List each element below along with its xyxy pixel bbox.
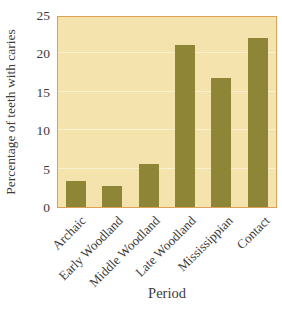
bar-late-woodland <box>175 45 195 207</box>
x-axis-title: Period <box>57 285 277 302</box>
y-tick-20: 20 <box>37 46 51 62</box>
bar-chart-figure: Percentage of teeth with caries 05101520… <box>0 0 282 317</box>
bar-early-woodland <box>102 186 122 207</box>
bar-series <box>58 17 276 207</box>
bar-mississippian <box>211 78 231 207</box>
bar-archaic <box>66 181 86 207</box>
bar-slot-3 <box>167 17 203 207</box>
y-tick-10: 10 <box>37 123 51 139</box>
y-axis-title: Percentage of teeth with caries <box>3 29 19 195</box>
bar-middle-woodland <box>139 164 159 207</box>
bar-slot-1 <box>94 17 130 207</box>
y-tick-25: 25 <box>37 8 51 24</box>
y-tick-0: 0 <box>43 200 50 216</box>
plot-area <box>57 16 277 208</box>
bar-contact <box>248 38 268 207</box>
bar-slot-2 <box>131 17 167 207</box>
bar-slot-4 <box>203 17 239 207</box>
x-label-contact: Contact <box>233 213 273 253</box>
bar-slot-0 <box>58 17 94 207</box>
y-tick-5: 5 <box>43 162 50 178</box>
y-tick-15: 15 <box>37 85 51 101</box>
bar-slot-5 <box>240 17 276 207</box>
